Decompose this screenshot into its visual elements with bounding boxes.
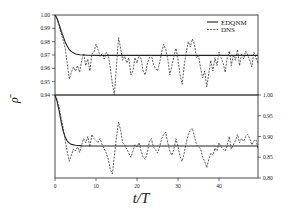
x-tick-label: 10 — [93, 183, 99, 189]
x-axis-label: t/T — [133, 190, 151, 206]
x-axis-ticks: 010203040 — [54, 178, 222, 189]
bottom-panel: 1.000.950.900.850.80 010203040 — [54, 92, 273, 189]
y-tick-label: 1.00 — [263, 92, 273, 98]
y-tick-label: 0.80 — [263, 175, 273, 181]
y-tick-label: 0.85 — [263, 154, 273, 160]
y-axis-label: ρ̄ — [7, 94, 21, 104]
y-tick-label: 0.98 — [40, 39, 50, 45]
top-y-axis-ticks: 1.000.990.980.970.960.950.94 — [40, 12, 55, 98]
chart: 1.000.990.980.970.960.950.94 1.000.950.9… — [0, 0, 293, 213]
y-tick-label: 0.95 — [40, 79, 50, 85]
legend-dns-label: DNS — [221, 26, 235, 34]
y-tick-label: 0.99 — [40, 25, 50, 31]
x-tick-label: 20 — [134, 183, 140, 189]
y-tick-label: 0.90 — [263, 134, 273, 140]
y-tick-label: 0.97 — [40, 52, 50, 58]
legend: EDQNM DNS — [207, 19, 247, 35]
y-tick-label: 0.95 — [263, 113, 273, 119]
bottom-panel-frame — [55, 95, 258, 178]
y-tick-label: 1.00 — [40, 12, 50, 18]
bottom-y-axis-ticks: 1.000.950.900.850.80 — [258, 92, 273, 181]
y-tick-label: 0.94 — [40, 92, 50, 98]
dns-line — [55, 95, 258, 174]
edqnm-line — [55, 95, 258, 146]
x-tick-label: 30 — [175, 183, 181, 189]
y-tick-label: 0.96 — [40, 65, 50, 71]
bottom-series — [55, 95, 258, 174]
x-tick-label: 0 — [54, 183, 57, 189]
x-tick-label: 40 — [216, 183, 222, 189]
